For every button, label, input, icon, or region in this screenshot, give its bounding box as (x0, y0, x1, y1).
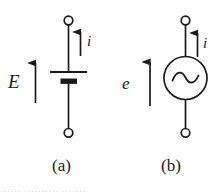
panel-b-top-terminal-circle (181, 16, 190, 25)
panel-b-circuit (150, 16, 207, 137)
panel-b-voltage-label: e (122, 75, 130, 92)
panel-a-voltage-label: E (8, 72, 20, 91)
panel-b-bottom-terminal-circle (181, 129, 190, 138)
panel-a-circuit (36, 16, 88, 137)
battery-negative-plate (61, 79, 78, 84)
panel-a-bottom-terminal-circle (64, 129, 73, 138)
panel-b-caption: (b) (161, 156, 181, 176)
panel-b-current-label: i (203, 36, 207, 51)
panel-a-caption: (a) (52, 156, 71, 176)
panel-a-top-terminal-circle (64, 16, 73, 25)
circuit-diagram-canvas (0, 0, 223, 194)
circuit-figure: E i e i (a) (b) ······ ·········· ······… (0, 0, 223, 194)
bottom-cutoff-text: ······ ·········· ······· (0, 186, 223, 194)
panel-a-current-label: i (87, 34, 91, 49)
